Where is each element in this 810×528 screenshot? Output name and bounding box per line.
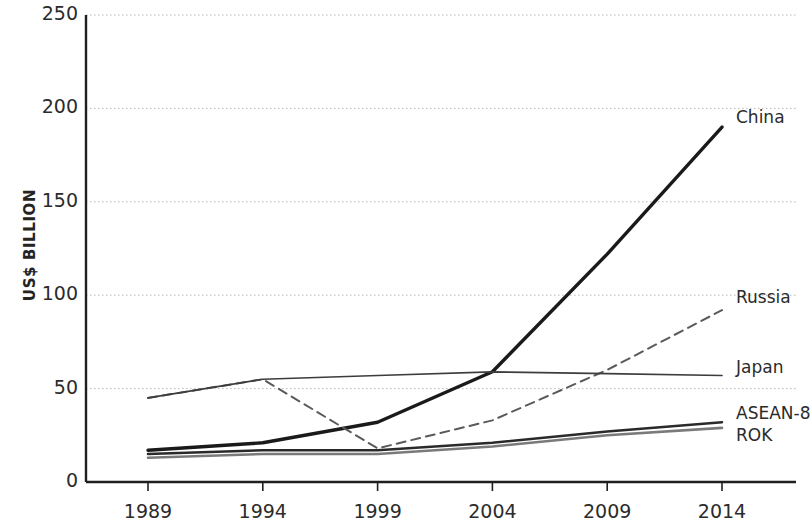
series-line-china: [148, 127, 722, 450]
series-label-russia: Russia: [736, 289, 791, 306]
series-line-japan: [148, 372, 722, 398]
series-label-china: China: [736, 109, 785, 126]
series-line-russia: [148, 310, 722, 448]
series-label-asean-8: ASEAN-8: [736, 405, 810, 422]
gridlines: [86, 15, 796, 482]
series-line-rok: [148, 428, 722, 458]
series-label-japan: Japan: [736, 359, 783, 376]
axis-lines: [86, 15, 796, 491]
series-label-rok: ROK: [736, 427, 772, 444]
series-lines: [148, 127, 722, 458]
